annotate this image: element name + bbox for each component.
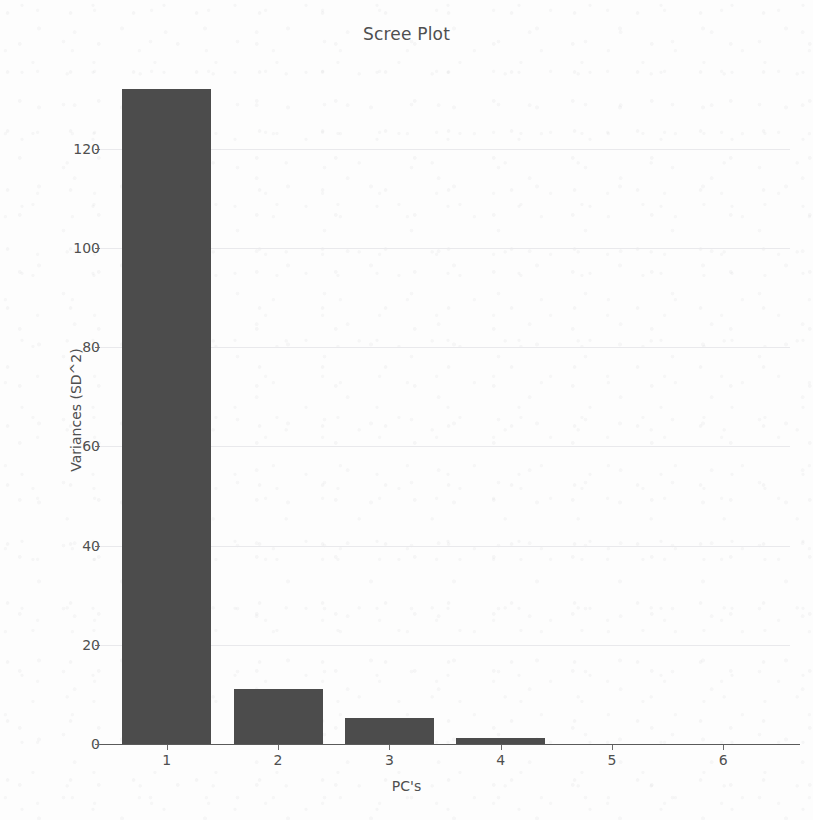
y-tick-label: 60 <box>54 438 100 454</box>
bar <box>234 689 323 744</box>
x-tick-label: 3 <box>359 752 419 768</box>
chart-title: Scree Plot <box>0 24 813 44</box>
x-tick-mark <box>278 745 279 750</box>
x-tick-mark <box>723 745 724 750</box>
x-tick-label: 2 <box>248 752 308 768</box>
y-tick-label: 80 <box>54 339 100 355</box>
x-tick-mark <box>389 745 390 750</box>
y-axis-ticks: 020406080100120 <box>0 0 100 820</box>
x-tick-label: 4 <box>471 752 531 768</box>
y-tick-label: 40 <box>54 538 100 554</box>
x-tick-mark <box>167 745 168 750</box>
y-tick-label: 120 <box>54 141 100 157</box>
y-tick-label: 0 <box>54 736 100 752</box>
scree-plot-figure: Scree Plot Variances (SD^2) 020406080100… <box>0 0 813 820</box>
bar <box>122 89 211 744</box>
y-tick-label: 20 <box>54 637 100 653</box>
plot-area <box>100 89 790 744</box>
x-tick-mark <box>501 745 502 750</box>
bar <box>345 718 434 744</box>
x-axis-label: PC's <box>0 778 813 794</box>
y-tick-label: 100 <box>54 240 100 256</box>
x-tick-label: 5 <box>582 752 642 768</box>
x-tick-mark <box>612 745 613 750</box>
x-axis-line <box>100 744 800 745</box>
x-tick-label: 1 <box>137 752 197 768</box>
x-tick-label: 6 <box>693 752 753 768</box>
